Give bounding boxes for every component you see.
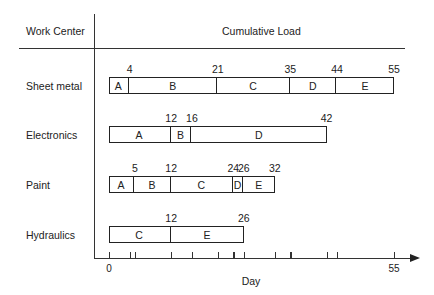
axis-tick: [233, 252, 234, 258]
cumulative-day-label: 44: [331, 63, 343, 75]
cumulative-day-label: 16: [186, 112, 198, 124]
axis-tick: [218, 252, 219, 258]
row-label: Electronics: [26, 129, 77, 141]
job-segment: B: [134, 177, 170, 192]
row-label: Hydraulics: [26, 229, 75, 241]
axis-tick: [109, 252, 110, 258]
axis-tick: [394, 252, 395, 258]
job-segment: B: [129, 78, 217, 93]
job-segment: E: [171, 227, 244, 242]
job-segment: A: [109, 177, 135, 192]
header-work-center: Work Center: [26, 25, 85, 37]
column-divider: [94, 14, 95, 259]
job-segment: E: [337, 78, 394, 93]
axis-tick: [192, 252, 193, 258]
job-segment: C: [171, 177, 233, 192]
cumulative-day-label: 55: [388, 63, 400, 75]
job-segment: D: [233, 177, 243, 192]
tick-label-0: 0: [106, 263, 112, 274]
load-bar: CE: [109, 226, 244, 243]
axis-tick: [327, 252, 328, 258]
header-cumulative-load: Cumulative Load: [222, 25, 301, 37]
cumulative-day-label: 12: [165, 112, 177, 124]
cumulative-day-label: 35: [285, 63, 297, 75]
axis-tick: [244, 252, 245, 258]
load-bar: ABCDE: [109, 77, 394, 94]
load-bar: ABCDE: [109, 176, 275, 193]
axis-tick: [130, 252, 131, 258]
axis-arrow-icon: [410, 254, 420, 262]
header-divider: [19, 48, 405, 49]
cumulative-day-label: 26: [238, 212, 250, 224]
job-segment: C: [217, 78, 290, 93]
job-segment: B: [171, 127, 192, 142]
x-axis-label: Day: [242, 275, 261, 287]
cumulative-day-label: 12: [165, 212, 177, 224]
axis-tick: [275, 252, 276, 258]
cumulative-day-label: 21: [212, 63, 224, 75]
axis-tick: [135, 252, 136, 258]
job-segment: A: [109, 127, 171, 142]
job-segment: E: [243, 177, 274, 192]
cumulative-day-label: 12: [165, 162, 177, 174]
row-label: Sheet metal: [26, 80, 82, 92]
cumulative-day-label: 26: [238, 162, 250, 174]
row-label: Paint: [26, 179, 50, 191]
cumulative-day-label: 42: [321, 112, 333, 124]
job-segment: D: [290, 78, 337, 93]
job-segment: C: [109, 227, 171, 242]
axis-tick: [171, 252, 172, 258]
job-segment: D: [191, 127, 326, 142]
cumulative-day-label: 32: [269, 162, 281, 174]
cumulative-day-label: 4: [127, 63, 133, 75]
x-axis: [94, 258, 412, 259]
cumulative-day-label: 5: [132, 162, 138, 174]
tick-label-55: 55: [388, 263, 399, 274]
load-bar: ABD: [109, 126, 327, 143]
axis-tick: [290, 252, 291, 258]
axis-tick: [337, 252, 338, 258]
job-segment: A: [109, 78, 130, 93]
